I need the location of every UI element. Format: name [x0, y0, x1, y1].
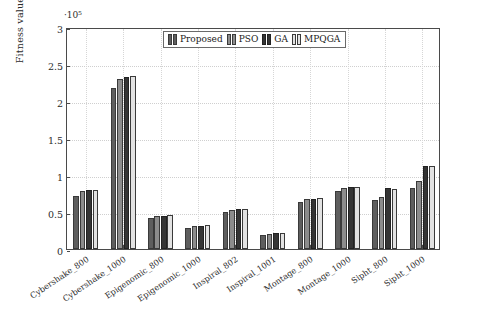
y-axis-label: Fitness value [14, 0, 25, 90]
bar [148, 218, 154, 249]
bar [80, 191, 86, 249]
bar-group [185, 29, 210, 249]
bar [205, 225, 211, 249]
legend-swatch-icon [168, 34, 177, 45]
bar [429, 166, 435, 249]
bar [379, 197, 385, 249]
bar [154, 216, 160, 249]
bar [185, 228, 191, 249]
bar [348, 187, 354, 249]
bar [416, 181, 422, 249]
y-tick-label: 3 [57, 24, 63, 35]
y-tick-label: 2.5 [48, 61, 63, 72]
y-tick-mark [67, 66, 70, 67]
bar [198, 226, 204, 249]
bar [124, 77, 130, 249]
legend-label: MPQGA [303, 35, 340, 44]
bar [273, 233, 279, 249]
bar [372, 200, 378, 249]
y-tick-label: 0.5 [48, 209, 63, 220]
y-tick-label: 2 [57, 98, 63, 109]
legend-label: Proposed [179, 35, 223, 44]
y-tick-label: 0 [57, 246, 63, 257]
bar [223, 212, 229, 249]
bar-group [298, 29, 323, 249]
bar [86, 190, 92, 249]
bar [117, 79, 123, 249]
bar [304, 199, 310, 249]
bar [229, 210, 235, 249]
legend-swatch-icon [262, 34, 271, 45]
y-tick-label: 1 [57, 172, 63, 183]
legend-entry: PSO [227, 34, 259, 45]
legend-label: PSO [238, 35, 259, 44]
bar [392, 189, 398, 249]
fitness-value-bar-chart: Fitness value ·10⁵ 00.511.522.53 Cybersh… [0, 0, 488, 325]
bar-group [223, 29, 248, 249]
bar-group [335, 29, 360, 249]
bar [280, 233, 286, 249]
legend-entry: GA [262, 34, 288, 45]
y-tick-mark [67, 251, 70, 252]
bar [335, 191, 341, 249]
bar-group [372, 29, 397, 249]
y-tick-mark [67, 177, 70, 178]
bar [354, 187, 360, 249]
bar [311, 199, 317, 249]
y-tick-mark [67, 214, 70, 215]
bar [260, 235, 266, 249]
bar-group [148, 29, 173, 249]
bar [317, 198, 323, 249]
bar [423, 166, 429, 249]
bar [73, 196, 79, 249]
bar [236, 209, 242, 249]
bar [161, 216, 167, 249]
bar [385, 188, 391, 249]
y-axis-exponent-label: ·10⁵ [64, 10, 82, 20]
bar [267, 234, 273, 249]
plot-area: 00.511.522.53 [66, 28, 440, 250]
bar-group [410, 29, 435, 249]
legend-swatch-icon [227, 34, 236, 45]
y-tick-mark [67, 140, 70, 141]
y-tick-label: 1.5 [48, 135, 63, 146]
bar [410, 188, 416, 249]
legend-entry: MPQGA [292, 34, 340, 45]
bar [242, 209, 248, 249]
bar [130, 76, 136, 249]
legend-swatch-icon [292, 34, 301, 45]
bar [167, 215, 173, 249]
bar [341, 188, 347, 249]
chart-legend: ProposedPSOGAMPQGA [163, 31, 346, 48]
legend-label: GA [273, 35, 288, 44]
bar-group [111, 29, 136, 249]
bar-group [73, 29, 98, 249]
bar [298, 202, 304, 249]
y-tick-mark [67, 103, 70, 104]
y-tick-mark [67, 29, 70, 30]
legend-entry: Proposed [168, 34, 223, 45]
bar [93, 190, 99, 249]
bar [111, 88, 117, 249]
bar [192, 226, 198, 249]
bar-group [260, 29, 285, 249]
